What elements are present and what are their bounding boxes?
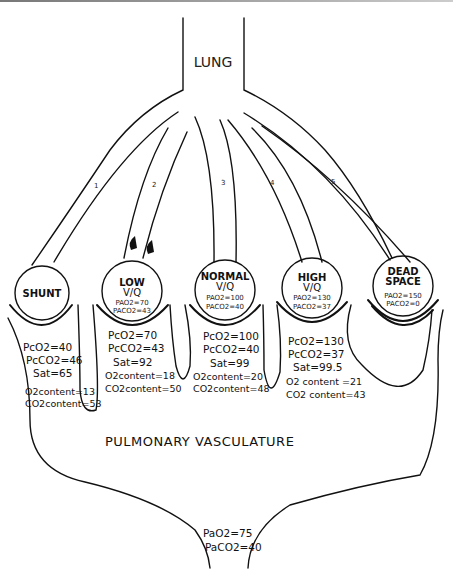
airway-4-right (252, 128, 322, 262)
alveolus-high-vq: HIGH V/Q PAO2=130 PACO2=37 (277, 258, 347, 322)
svg-text:CO2content=48: CO2content=48 (193, 383, 270, 394)
svg-text:PcCO2=46: PcCO2=46 (26, 354, 83, 366)
svg-text:PaCO2=40: PaCO2=40 (205, 541, 262, 553)
svg-text:PcCO2=37: PcCO2=37 (288, 348, 345, 360)
low-vq-capillary-values: PcO2=70 PcCO2=43 Sat=92 O2content=18 CO2… (105, 329, 182, 394)
svg-text:PAO2=130: PAO2=130 (293, 294, 331, 302)
airway-5-left (244, 113, 390, 260)
svg-text:CO2content=53: CO2content=53 (25, 398, 102, 409)
airway-number-5: 5 (331, 178, 335, 186)
svg-text:PACO2=37: PACO2=37 (293, 303, 331, 311)
airway-number-2: 2 (152, 181, 156, 189)
svg-text:O2content=18: O2content=18 (105, 370, 175, 381)
svg-text:CO2 content=43: CO2 content=43 (286, 389, 366, 400)
svg-text:Sat=99: Sat=99 (210, 357, 249, 369)
svg-text:PcCO2=40: PcCO2=40 (203, 343, 260, 355)
svg-text:SHUNT: SHUNT (23, 288, 62, 299)
lung-label: LUNG (194, 54, 233, 70)
airway-5-right (262, 126, 410, 262)
svg-text:O2content=20: O2content=20 (193, 371, 263, 382)
svg-text:PAO2=100: PAO2=100 (206, 294, 244, 302)
airway-3-right (220, 120, 236, 262)
svg-text:V/Q: V/Q (303, 282, 321, 293)
ventilation-perfusion-diagram: LUNG 1 2 3 4 5 SHUNT LOW V/Q PAO2=70 PAC… (0, 0, 453, 572)
svg-text:PcO2=130: PcO2=130 (288, 335, 344, 347)
svg-text:PcO2=40: PcO2=40 (23, 341, 72, 353)
normal-vq-capillary-values: PcO2=100 PcCO2=40 Sat=99 O2content=20 CO… (193, 330, 270, 394)
svg-text:V/Q: V/Q (123, 287, 141, 298)
svg-text:CO2content=50: CO2content=50 (105, 383, 182, 394)
trachea: LUNG (32, 18, 392, 265)
svg-text:PaO2=75: PaO2=75 (203, 527, 252, 539)
airway-number-4: 4 (270, 179, 275, 187)
alveolus-dead-space: DEAD SPACE PAO2=150 PACO2=0 (368, 256, 438, 325)
airway-3-left (195, 117, 214, 262)
svg-text:Sat=99.5: Sat=99.5 (293, 361, 342, 373)
alveolus-shunt: SHUNT (10, 266, 72, 325)
svg-text:O2 content =21: O2 content =21 (286, 376, 362, 387)
svg-text:PcCO2=43: PcCO2=43 (108, 342, 165, 354)
alveolus-normal-vq: NORMAL V/Q PAO2=100 PACO2=40 (190, 260, 260, 325)
alveolus-low-vq: LOW V/Q PAO2=70 PACO2=43 (97, 261, 168, 325)
svg-text:PcO2=70: PcO2=70 (108, 329, 157, 341)
pulmonary-vasculature-label: PULMONARY VASCULATURE (105, 434, 294, 449)
svg-text:PAO2=150: PAO2=150 (384, 292, 422, 300)
svg-text:O2content=13: O2content=13 (25, 386, 95, 397)
airway-number-3: 3 (221, 179, 225, 187)
airway-1-wall (54, 112, 178, 262)
svg-text:Sat=92: Sat=92 (113, 356, 152, 368)
svg-text:V/Q: V/Q (216, 281, 234, 292)
shunt-capillary-values: PcO2=40 PcCO2=46 Sat=65 O2content=13 CO2… (23, 341, 102, 409)
arterial-values: PaO2=75 PaCO2=40 (203, 527, 262, 553)
svg-text:Sat=65: Sat=65 (33, 367, 72, 379)
airway-2-left (124, 128, 168, 258)
airway-2-right (143, 132, 187, 258)
constriction-left (130, 236, 137, 250)
svg-text:SPACE: SPACE (385, 276, 421, 287)
svg-text:PcO2=100: PcO2=100 (203, 330, 259, 342)
high-vq-capillary-values: PcO2=130 PcCO2=37 Sat=99.5 O2 content =2… (286, 335, 366, 400)
airway-number-1: 1 (94, 182, 98, 190)
svg-text:PAO2=70: PAO2=70 (115, 299, 148, 307)
svg-text:PACO2=43: PACO2=43 (113, 307, 151, 315)
svg-text:PACO2=40: PACO2=40 (206, 303, 244, 311)
svg-text:PACO2=0: PACO2=0 (386, 300, 420, 308)
